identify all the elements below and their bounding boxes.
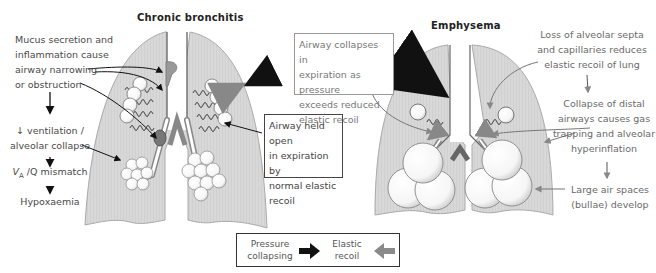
legend-elastic-label: Elastic recoil bbox=[327, 238, 367, 262]
distal-collapse-annotation: Collapse of distal airways causes gas tr… bbox=[552, 96, 656, 156]
airway-collapses-box: Airway collapses in expiration as pressu… bbox=[294, 33, 394, 95]
loss-of-septa-annotation: Loss of alveolar septa and capillaries r… bbox=[536, 27, 648, 72]
panel-title-emphysema: Emphysema bbox=[431, 20, 501, 31]
mucus-annotation: Mucus secretion and inflammation cause a… bbox=[15, 32, 113, 92]
hypoxaemia-label: Hypoxaemia bbox=[10, 194, 90, 209]
elastic-recoil-arrow-icon bbox=[373, 243, 395, 259]
ventilation-annotation: ↓ ventilation / alveolar collapse bbox=[10, 123, 90, 153]
bullae-annotation: Large air spaces (bullae) develop bbox=[568, 182, 652, 212]
panel-title-chronic-bronchitis: Chronic bronchitis bbox=[137, 12, 244, 23]
va-q-mismatch-label: VA /Q mismatch bbox=[10, 164, 90, 184]
legend-pressure-label: Pressure collapsing bbox=[245, 238, 295, 262]
pressure-arrow-icon bbox=[299, 243, 321, 259]
arrow-legend: Pressure collapsing Elastic recoil bbox=[236, 233, 400, 267]
